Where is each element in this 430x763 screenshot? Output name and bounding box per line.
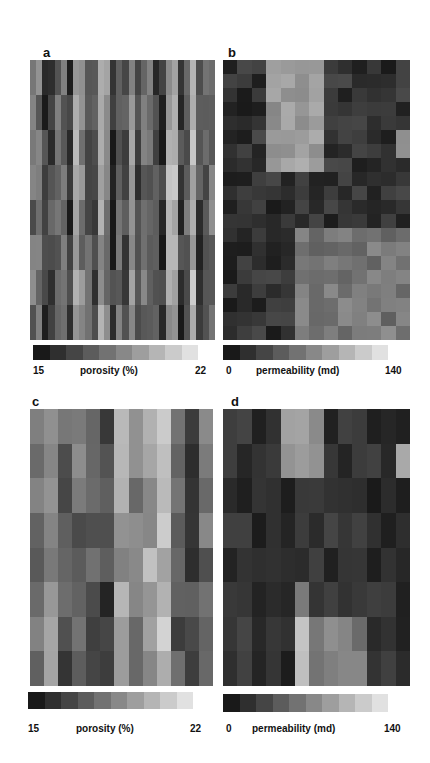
heatmap-cell xyxy=(338,444,352,479)
heatmap-cell xyxy=(223,298,237,312)
heatmap-cell xyxy=(157,513,171,548)
heatmap-cell xyxy=(100,409,114,444)
heatmap-cell xyxy=(237,60,251,74)
heatmap-cell xyxy=(309,444,323,479)
heatmap-cell xyxy=(367,228,381,242)
colorbar-max-label: 22 xyxy=(195,366,206,376)
heatmap-cell xyxy=(266,478,280,513)
heatmap-cell xyxy=(237,214,251,228)
heatmap-cell xyxy=(281,214,295,228)
heatmap-cell xyxy=(209,270,215,305)
heatmap-cell xyxy=(252,444,266,479)
heatmap-cell xyxy=(367,242,381,256)
heatmap-cell xyxy=(266,256,280,270)
heatmap-cell xyxy=(295,228,309,242)
heatmap-cell xyxy=(324,256,338,270)
heatmap-cell xyxy=(223,548,237,583)
heatmap-cell xyxy=(266,513,280,548)
heatmap-cell xyxy=(252,617,266,652)
heatmap-cell xyxy=(100,478,114,513)
colorbar-permeability xyxy=(223,345,388,360)
heatmap-cell xyxy=(199,548,213,583)
heatmap-cell xyxy=(171,444,185,479)
heatmap-cell xyxy=(338,270,352,284)
heatmap-cell xyxy=(295,298,309,312)
heatmap-cell xyxy=(266,228,280,242)
heatmap-cell xyxy=(266,158,280,172)
heatmap-cell xyxy=(86,513,100,548)
heatmap-cell xyxy=(352,214,366,228)
heatmap-cell xyxy=(295,88,309,102)
heatmap-cell xyxy=(252,298,266,312)
heatmap-cell xyxy=(352,200,366,214)
heatmap-cell xyxy=(157,651,171,686)
heatmap-cell xyxy=(266,409,280,444)
colorbar-step xyxy=(223,694,240,712)
heatmap-cell xyxy=(72,478,86,513)
colorbar-step xyxy=(355,345,372,360)
colorbar-max-label: 22 xyxy=(190,724,201,734)
heatmap-cell xyxy=(281,60,295,74)
heatmap-cell xyxy=(209,165,215,200)
heatmap-cell xyxy=(309,312,323,326)
heatmap-cell xyxy=(396,228,410,242)
heatmap-cell xyxy=(381,651,395,686)
heatmap-cell xyxy=(367,270,381,284)
heatmap-cell xyxy=(266,548,280,583)
heatmap-cell xyxy=(266,74,280,88)
heatmap-cell xyxy=(237,74,251,88)
heatmap-cell xyxy=(352,617,366,652)
heatmap-cell xyxy=(352,116,366,130)
heatmap-cell xyxy=(381,617,395,652)
heatmap-cell xyxy=(396,102,410,116)
colorbar-step xyxy=(339,694,356,712)
heatmap-cell xyxy=(324,513,338,548)
heatmap-cell xyxy=(352,102,366,116)
heatmap-cell xyxy=(209,200,215,235)
heatmap-cell xyxy=(44,513,58,548)
heatmap-cell xyxy=(324,116,338,130)
heatmap-cell xyxy=(223,214,237,228)
heatmap-cell xyxy=(114,513,128,548)
heatmap-cell xyxy=(129,444,143,479)
heatmap-cell xyxy=(185,651,199,686)
heatmap-cell xyxy=(396,478,410,513)
heatmap-cell xyxy=(324,284,338,298)
colorbar-step xyxy=(177,692,194,709)
colorbar-step xyxy=(372,694,389,712)
heatmap-cell xyxy=(223,60,237,74)
heatmap-cell xyxy=(396,186,410,200)
heatmap-cell xyxy=(86,409,100,444)
heatmap-cell xyxy=(237,144,251,158)
heatmap-cell xyxy=(237,548,251,583)
heatmap-cell xyxy=(237,186,251,200)
heatmap-cell xyxy=(338,651,352,686)
heatmap-cell xyxy=(237,88,251,102)
heatmap-cell xyxy=(72,444,86,479)
heatmap-cell xyxy=(324,298,338,312)
heatmap-cell xyxy=(209,60,215,95)
heatmap-cell xyxy=(266,617,280,652)
heatmap-cell xyxy=(223,409,237,444)
colorbar-min-label: 0 xyxy=(226,366,232,376)
heatmap-cell xyxy=(309,214,323,228)
heatmap-cell xyxy=(338,284,352,298)
heatmap-cell xyxy=(396,158,410,172)
heatmap-cell xyxy=(30,478,44,513)
heatmap-cell xyxy=(324,548,338,583)
heatmap-cell xyxy=(252,270,266,284)
heatmap-cell xyxy=(199,444,213,479)
heatmap-cell xyxy=(309,116,323,130)
heatmap-cell xyxy=(367,186,381,200)
heatmap-cell xyxy=(309,256,323,270)
heatmap-cell xyxy=(223,312,237,326)
heatmap-cell xyxy=(367,256,381,270)
heatmap-cell xyxy=(396,582,410,617)
heatmap-cell xyxy=(199,617,213,652)
heatmap-cell xyxy=(266,186,280,200)
heatmap-cell xyxy=(381,200,395,214)
heatmap-cell xyxy=(281,651,295,686)
heatmap-cell xyxy=(381,102,395,116)
heatmap-cell xyxy=(143,444,157,479)
heatmap-cell xyxy=(72,548,86,583)
